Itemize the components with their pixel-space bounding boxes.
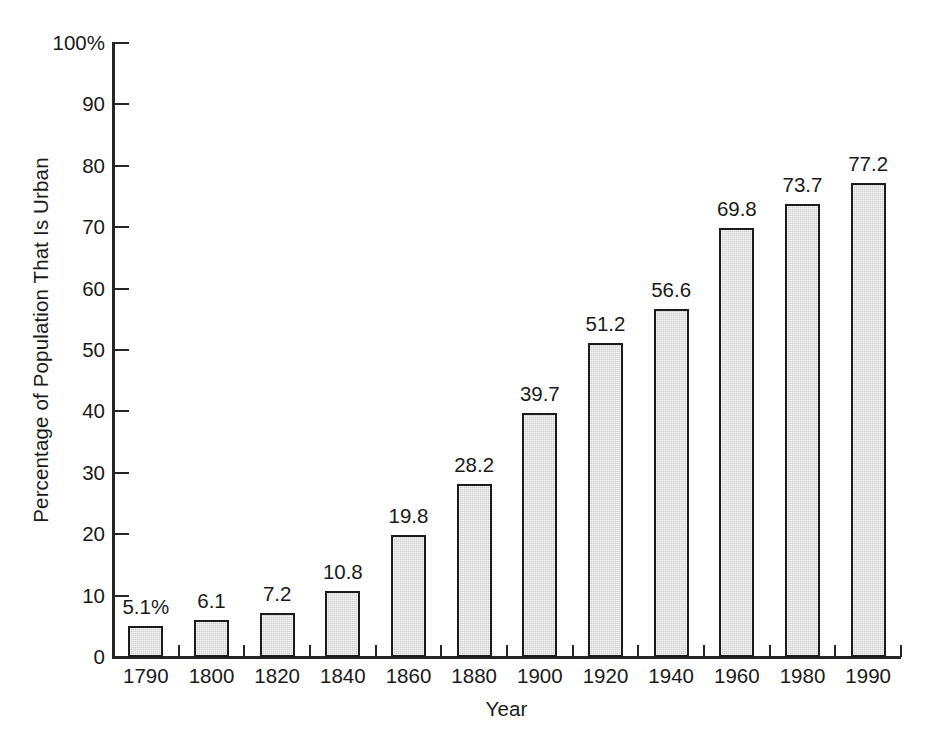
x-axis-tick: [506, 645, 508, 657]
x-axis-tick: [243, 645, 245, 657]
bar: [654, 309, 689, 657]
y-axis-tick: [115, 165, 129, 167]
bar: [128, 626, 163, 657]
y-axis-tick-label: 70: [5, 217, 105, 238]
x-axis-tick-label: 1990: [818, 665, 918, 687]
y-axis-tick: [115, 226, 129, 228]
y-axis-line: [112, 42, 115, 659]
y-axis-tick-label: 60: [5, 279, 105, 300]
bar-value-label: 39.7: [490, 384, 590, 405]
x-axis-tick: [309, 645, 311, 657]
bar-value-label: 56.6: [621, 280, 721, 301]
y-axis-tick-label: 80: [5, 156, 105, 177]
y-axis-tick: [115, 42, 129, 44]
bar: [194, 620, 229, 657]
y-axis-tick: [115, 288, 129, 290]
bar-value-label: 19.8: [359, 506, 459, 527]
bar: [260, 613, 295, 657]
bar: [851, 183, 886, 657]
bar: [719, 228, 754, 657]
y-axis-tick-label: 10: [5, 586, 105, 607]
bar-chart: Percentage of Population That Is Urban 0…: [0, 0, 931, 741]
y-axis-tick: [115, 472, 129, 474]
bar-value-label: 77.2: [818, 154, 918, 175]
bar-value-label: 69.8: [687, 199, 787, 220]
y-axis-tick-label: 30: [5, 463, 105, 484]
y-axis-tick-label: 20: [5, 524, 105, 545]
bar-value-label: 10.8: [293, 562, 393, 583]
y-axis-tick: [115, 349, 129, 351]
bar: [588, 343, 623, 657]
x-axis-tick: [834, 645, 836, 657]
y-axis-tick: [115, 410, 129, 412]
bar: [325, 591, 360, 657]
bar: [785, 204, 820, 657]
x-axis-tick: [375, 645, 377, 657]
bar-value-label: 51.2: [556, 314, 656, 335]
y-axis-tick-label: 100%: [5, 33, 105, 54]
x-axis-tick: [440, 645, 442, 657]
y-axis-tick-label: 50: [5, 340, 105, 361]
y-axis-tick-label: 90: [5, 94, 105, 115]
x-axis-tick: [769, 645, 771, 657]
y-axis-tick: [115, 533, 129, 535]
bar: [522, 413, 557, 657]
y-axis-tick-label: 40: [5, 401, 105, 422]
bar: [457, 484, 492, 657]
y-axis-tick: [115, 103, 129, 105]
x-axis-title: Year: [113, 697, 900, 721]
bar: [391, 535, 426, 657]
x-axis-tick: [178, 645, 180, 657]
bar-value-label: 28.2: [424, 455, 524, 476]
bar-value-label: 73.7: [753, 175, 853, 196]
x-axis-tick: [703, 645, 705, 657]
x-axis-tick: [637, 645, 639, 657]
x-axis-tick: [572, 645, 574, 657]
y-axis-tick-label: 0: [5, 647, 105, 668]
bar-value-label: 7.2: [227, 584, 327, 605]
x-axis-tick: [900, 645, 902, 657]
